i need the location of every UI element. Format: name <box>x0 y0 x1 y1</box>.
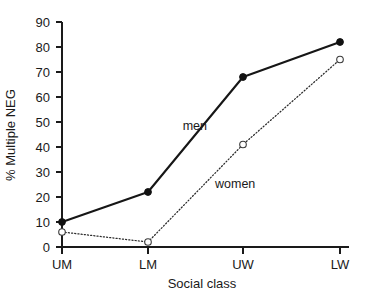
x-axis-ticks <box>62 247 340 254</box>
y-tick-label-0: 0 <box>43 240 50 255</box>
y-tick-label-70: 70 <box>36 65 50 80</box>
data-point-women-uw <box>240 141 247 148</box>
x-tick-label-um: UM <box>52 257 72 272</box>
x-tick-label-uw: UW <box>232 257 254 272</box>
figure-container: 90 80 70 60 50 40 30 20 10 0 UM LM UW LW… <box>0 0 368 300</box>
y-tick-label-30: 30 <box>36 165 50 180</box>
y-tick-label-50: 50 <box>36 115 50 130</box>
data-point-men-uw <box>240 74 247 81</box>
y-tick-label-20: 20 <box>36 190 50 205</box>
data-point-men-lm <box>145 189 152 196</box>
series-label-men: men <box>183 119 207 133</box>
x-tick-label-lm: LM <box>139 257 157 272</box>
series-line-women <box>62 60 340 243</box>
y-tick-label-40: 40 <box>36 140 50 155</box>
series-label-women: women <box>214 177 255 191</box>
y-tick-label-10: 10 <box>36 215 50 230</box>
x-axis-title: Social class <box>168 276 237 291</box>
line-chart: 90 80 70 60 50 40 30 20 10 0 UM LM UW LW… <box>0 0 368 300</box>
data-point-men-lw <box>337 39 344 46</box>
y-axis-ticks <box>56 22 62 247</box>
caption-fragment-sliver <box>0 293 368 300</box>
data-point-women-um <box>59 229 66 236</box>
data-point-women-lm <box>145 239 152 246</box>
y-axis-title: % Multiple NEG <box>3 89 18 181</box>
y-tick-label-80: 80 <box>36 40 50 55</box>
series-markers-women <box>59 56 344 245</box>
data-point-men-um <box>59 219 66 226</box>
y-tick-label-60: 60 <box>36 90 50 105</box>
x-tick-label-lw: LW <box>331 257 350 272</box>
y-axis-tick-labels: 90 80 70 60 50 40 30 20 10 0 <box>36 15 50 255</box>
x-axis-tick-labels: UM LM UW LW <box>52 257 350 272</box>
data-point-women-lw <box>337 56 344 63</box>
y-tick-label-90: 90 <box>36 15 50 30</box>
